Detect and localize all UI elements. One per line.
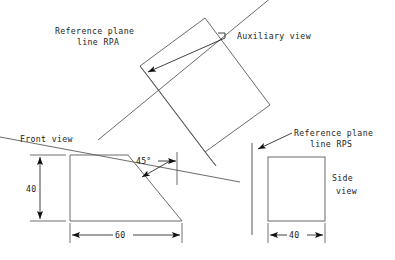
reference-plane-rps-leader (258, 133, 292, 149)
reference-plane-line-rpa (98, 0, 300, 140)
side-view-label-line2: view (336, 186, 357, 196)
chamfer-angle-value: 45° (136, 156, 151, 166)
auxiliary-view-band-end-left (140, 66, 151, 80)
side-view-group (268, 157, 325, 221)
auxiliary-view-label: Auxiliary view (237, 31, 311, 41)
front-view-label: Front view (20, 134, 73, 144)
front-width-value: 60 (115, 230, 125, 240)
reference-plane-rpa-label-line2: line RPA (77, 37, 119, 47)
reference-plane-rpa-label-line1: Reference plane (55, 26, 134, 36)
auxiliary-view-band-end-right (205, 152, 216, 166)
reference-plane-rps-label-line1: Reference plane (294, 128, 373, 138)
front-view-group (70, 155, 182, 221)
front-view-outline (70, 155, 182, 221)
chamfer-angle-annotation: 45° (136, 152, 177, 185)
reference-plane-rps-label-line2: line RPS (310, 139, 352, 149)
reference-plane-rpa-annotation: Reference plane line RPA (55, 26, 225, 72)
cad-drawing-svg: Reference plane line RPA Auxiliary view … (0, 0, 395, 260)
side-width-dimension: 40 (268, 223, 325, 243)
front-height-dimension: 40 (26, 155, 66, 221)
side-view-outline (268, 157, 325, 221)
side-view-label-line1: Side (332, 173, 353, 183)
side-width-value: 40 (289, 230, 299, 240)
reference-plane-rps-annotation: Reference plane line RPS (258, 128, 373, 149)
front-width-dimension: 60 (70, 223, 182, 243)
front-height-value: 40 (26, 184, 36, 194)
reference-plane-rpa-leader (148, 33, 225, 72)
technical-drawing-canvas: Reference plane line RPA Auxiliary view … (0, 0, 395, 260)
